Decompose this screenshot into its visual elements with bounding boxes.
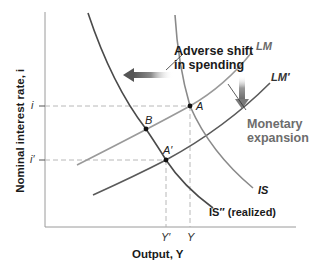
y-axis-title: Nominal interest rate, i bbox=[15, 66, 27, 196]
is-realized-curve-label-text: IS″ (realized) bbox=[209, 206, 276, 218]
monetary-expansion-line-1: Monetary bbox=[247, 117, 309, 131]
x-tick-y: Y bbox=[187, 232, 194, 243]
point-a-label: A bbox=[196, 101, 203, 112]
point-b-label: B bbox=[145, 115, 152, 126]
adverse-shift-annotation: Adverse shift in spending bbox=[174, 44, 253, 72]
lm-prime-curve-label: LM′ bbox=[271, 72, 290, 83]
x-axis-title: Output, Y bbox=[132, 249, 184, 261]
x-tick-y-prime: Y′ bbox=[161, 232, 170, 243]
adverse-shift-line-1: Adverse shift bbox=[174, 44, 253, 58]
is-lm-diagram: Nominal interest rate, i Output, Y i i′ … bbox=[0, 0, 319, 269]
point-a-prime-label: A′ bbox=[163, 145, 172, 156]
is-realized-curve bbox=[88, 13, 213, 208]
adverse-shift-line-2: in spending bbox=[174, 58, 253, 72]
left-arrow-icon bbox=[123, 68, 173, 82]
point-a-dot bbox=[188, 104, 193, 109]
y-tick-i: i bbox=[31, 100, 33, 111]
is-realized-curve-label: IS″ (realized) bbox=[209, 207, 276, 218]
monetary-expansion-annotation: Monetary expansion bbox=[247, 117, 309, 145]
y-tick-i-prime: i′ bbox=[30, 154, 35, 165]
lm-curve-label: LM bbox=[256, 41, 272, 52]
point-b-dot bbox=[144, 127, 149, 132]
point-a-prime-dot bbox=[164, 158, 169, 163]
is-curve-label: IS bbox=[258, 185, 268, 196]
monetary-expansion-line-2: expansion bbox=[247, 131, 309, 145]
